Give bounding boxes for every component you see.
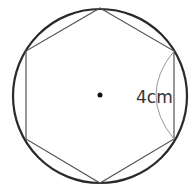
side-length-label: 4cm <box>136 87 173 107</box>
hexagon-diagram: 4cm <box>0 0 193 195</box>
diagram-canvas: 4cm <box>0 0 193 195</box>
center-point <box>98 93 103 98</box>
